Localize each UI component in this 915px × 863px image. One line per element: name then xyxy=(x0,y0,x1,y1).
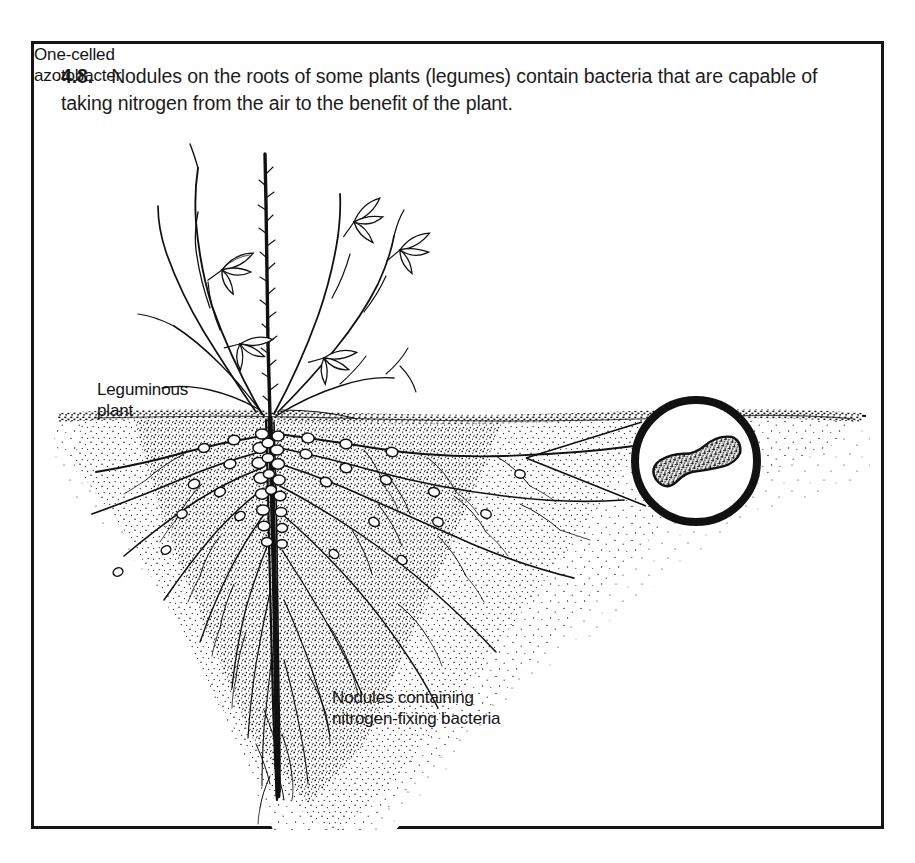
leaf-cluster xyxy=(204,197,439,387)
label-leguminous-plant: Leguminous plant xyxy=(97,379,188,421)
label-nodules: Nodules containing nitrogen-fixing bacte… xyxy=(332,687,500,729)
stem-hairs xyxy=(258,167,278,402)
root-system xyxy=(92,418,634,824)
soil-stipple xyxy=(54,416,874,832)
figure-frame: 4.8.Nodules on the roots of some plants … xyxy=(31,41,884,829)
leguminous-plant xyxy=(138,144,439,418)
figure-container: 4.8.Nodules on the roots of some plants … xyxy=(0,0,915,863)
figure-caption: 4.8.Nodules on the roots of some plants … xyxy=(61,63,861,117)
root-nodules xyxy=(112,429,526,578)
magnifier-leader-lines xyxy=(526,422,646,506)
azotobacter-cell xyxy=(649,430,744,492)
label-azotobacter: One-celled azotobacter xyxy=(34,44,121,86)
figure-caption-text: Nodules on the roots of some plants (leg… xyxy=(61,65,817,114)
magnifier-circle xyxy=(635,400,757,522)
